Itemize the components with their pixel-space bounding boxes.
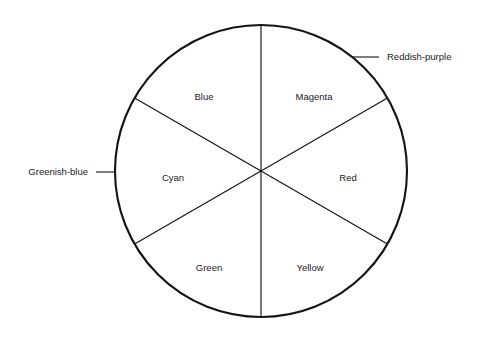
color-wheel-svg: Blue Magenta Red Yellow Green Cyan Reddi… bbox=[0, 0, 487, 342]
sector-label-green: Green bbox=[196, 262, 222, 273]
sector-label-yellow: Yellow bbox=[296, 262, 323, 273]
callout-label-reddish-purple: Reddish-purple bbox=[387, 51, 451, 62]
sector-label-magenta: Magenta bbox=[296, 91, 334, 102]
sector-label-cyan: Cyan bbox=[162, 172, 184, 183]
sector-label-red: Red bbox=[339, 172, 356, 183]
callout-label-greenish-blue: Greenish-blue bbox=[28, 166, 88, 177]
color-wheel-diagram: Blue Magenta Red Yellow Green Cyan Reddi… bbox=[0, 0, 487, 342]
sector-label-blue: Blue bbox=[194, 91, 213, 102]
